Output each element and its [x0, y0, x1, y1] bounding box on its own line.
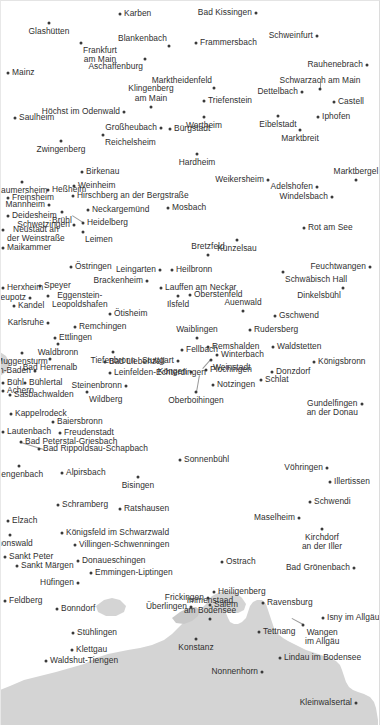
city-label: Tettnang — [263, 627, 296, 636]
city-dot-icon — [321, 528, 324, 531]
city-label: Ötisheim — [114, 309, 147, 318]
city-dot-icon — [90, 572, 93, 575]
city-label: Neckargemünd — [92, 205, 149, 214]
city-dot-icon — [7, 520, 10, 523]
city-dot-icon — [7, 72, 10, 75]
city-dot-icon — [160, 287, 163, 290]
city-dot-icon — [167, 207, 170, 210]
city-dot-icon — [181, 349, 184, 352]
city-dot-icon — [82, 222, 85, 225]
city-dot-icon — [319, 88, 322, 91]
city-label: Bad Rippoldsau-Schapbach — [43, 444, 148, 453]
city-dot-icon — [9, 394, 12, 397]
city-label: Karlsruhe — [8, 318, 44, 327]
city-label: Gengenbach — [0, 470, 43, 479]
city-dot-icon — [20, 441, 23, 444]
city-dot-icon — [73, 224, 76, 227]
city-label: Wildberg — [89, 395, 122, 404]
city-label: Maselheim — [254, 513, 295, 522]
city-label: Eibelstadt — [259, 120, 296, 129]
city-dot-icon — [123, 111, 126, 114]
city-label: Klingenberg am Main — [128, 84, 173, 103]
city-label: Marktbergel — [334, 167, 379, 176]
city-dot-icon — [47, 295, 50, 298]
city-dot-icon — [77, 582, 80, 585]
city-dot-icon — [38, 448, 41, 451]
city-dot-icon — [2, 390, 5, 393]
map-container[interactable]: KarbenBad KissingenGlashüttenSchweinfurt… — [0, 0, 380, 725]
city-label: Notzingen — [217, 380, 255, 389]
city-label: Hirschberg an der Bergstraße — [77, 191, 189, 200]
city-dot-icon — [221, 561, 224, 564]
city-label: Bisingen — [122, 481, 155, 490]
city-label: Auenwald — [224, 298, 261, 307]
city-dot-icon — [326, 467, 329, 470]
city-label: Dettelbach — [257, 87, 298, 96]
city-dot-icon — [195, 42, 198, 45]
city-dot-icon — [71, 649, 74, 652]
city-dot-icon — [9, 534, 12, 537]
city-dot-icon — [177, 295, 180, 298]
city-dot-icon — [303, 227, 306, 230]
city-dot-icon — [74, 544, 77, 547]
city-dot-icon — [57, 343, 60, 346]
city-label: Aschaffenburg — [88, 62, 143, 71]
city-label: Konstanz — [178, 643, 213, 652]
city-dot-icon — [207, 254, 210, 257]
city-dot-icon — [203, 116, 206, 119]
city-dot-icon — [267, 179, 270, 182]
city-label: Adelshofen — [271, 182, 313, 191]
city-dot-icon — [39, 285, 42, 288]
city-label: Neustadt an der Weinstraße — [7, 225, 65, 244]
city-label: Schwäbisch Hall — [285, 275, 347, 284]
city-dot-icon — [48, 204, 51, 207]
city-dot-icon — [137, 476, 140, 479]
city-label: Donaueschingen — [82, 556, 146, 565]
city-dot-icon — [196, 153, 199, 156]
city-dot-icon — [2, 247, 5, 250]
city-dot-icon — [212, 384, 215, 387]
city-dot-icon — [277, 115, 280, 118]
city-dot-icon — [73, 185, 76, 188]
city-label: Maikammer — [7, 243, 51, 252]
city-label: Überlingen — [146, 602, 187, 611]
city-label: Iphofen — [322, 112, 350, 121]
city-label: Villingen-Schwenningen — [79, 540, 169, 549]
city-label: Remchingen — [79, 322, 127, 331]
city-dot-icon — [61, 532, 64, 535]
city-dot-icon — [260, 379, 263, 382]
city-label: Baden-Baden — [0, 366, 31, 375]
city-dot-icon — [47, 322, 50, 325]
city-label: Steinenbronn — [72, 381, 122, 390]
city-label: Castell — [338, 97, 364, 106]
city-label: Schwarzach am Main — [280, 76, 361, 85]
city-dot-icon — [10, 413, 13, 416]
city-dot-icon — [57, 504, 60, 507]
city-dot-icon — [2, 431, 5, 434]
city-label: Bonndorf — [61, 604, 95, 613]
city-label: Waldshut-Tiengen — [50, 656, 118, 665]
city-label: Bretzfeld — [191, 242, 225, 251]
city-label: Königsfeld im Schwarzwald — [66, 528, 169, 537]
city-label: Mainz — [12, 68, 35, 77]
city-dot-icon — [2, 382, 5, 385]
city-dot-icon — [146, 280, 149, 283]
city-dot-icon — [301, 91, 304, 94]
city-dot-icon — [274, 315, 277, 318]
city-label: Sasbachwalden — [14, 390, 74, 399]
city-label: Kandel — [18, 301, 44, 310]
city-label: Lautenbach — [7, 427, 51, 436]
city-dot-icon — [322, 617, 325, 620]
city-dot-icon — [81, 171, 84, 174]
city-label: Waiblingen — [176, 325, 218, 334]
city-label: Saulheim — [19, 113, 54, 122]
city-label: Lindau im Bodensee — [284, 653, 361, 662]
city-label: Illertissen — [334, 477, 370, 486]
city-label: Köngen — [158, 367, 187, 376]
city-dot-icon — [195, 638, 198, 641]
city-dot-icon — [45, 660, 48, 663]
city-label: Weikersheim — [215, 175, 264, 184]
city-dot-icon — [313, 361, 316, 364]
city-dot-icon — [74, 326, 77, 329]
city-dot-icon — [61, 211, 64, 214]
